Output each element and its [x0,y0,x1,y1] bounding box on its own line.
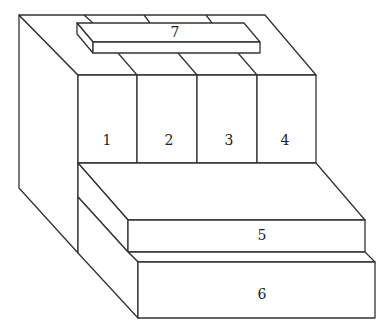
block-3-label: 3 [225,132,234,148]
block-6-label: 6 [258,286,267,302]
block-7-top [77,23,260,42]
block-6-front [138,262,375,318]
block-4-front [257,75,316,163]
block-7-label: 7 [171,24,180,40]
block-5-label: 5 [258,227,267,243]
block-1-label: 1 [103,132,112,148]
block-7-front [93,42,260,53]
block-1-front [78,75,137,163]
block-diagram: 7 1 2 3 4 5 6 [0,0,389,335]
block-2-label: 2 [165,132,174,148]
block-3-front [197,75,257,163]
block-4-label: 4 [281,132,290,148]
block-5-front [128,220,365,252]
block-2-front [137,75,197,163]
block-6-top [128,252,375,262]
